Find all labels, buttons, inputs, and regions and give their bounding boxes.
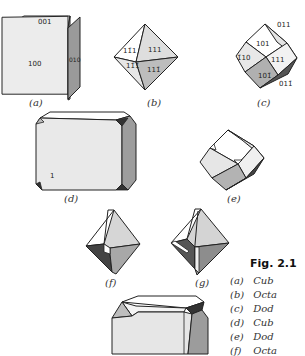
crystal-bevelled-cube-h	[108, 292, 208, 354]
caption-c: (c)	[257, 97, 270, 108]
legend-text: Cub	[253, 317, 274, 328]
legend-row-b: (b) Octa	[230, 289, 277, 300]
svg-text:101̄: 101̄	[258, 72, 271, 80]
legend-key: (e)	[230, 331, 250, 342]
caption-a: (a)	[29, 97, 43, 108]
legend-row-e: (e) Dod	[230, 331, 274, 342]
legend-text: Dod	[253, 331, 273, 342]
svg-text:1: 1	[50, 172, 54, 180]
legend-key: (c)	[230, 303, 250, 314]
svg-text:011̄: 011̄	[279, 80, 292, 88]
caption-g: (g)	[195, 277, 209, 288]
svg-text:101: 101	[256, 40, 269, 48]
caption-e: (e)	[227, 193, 241, 204]
svg-text:11̄1̄: 11̄1̄	[126, 62, 139, 70]
index-100: 100	[28, 60, 41, 68]
crystal-truncated-octahedron-f	[82, 208, 142, 276]
svg-text:11̄1: 11̄1	[123, 47, 136, 55]
legend-key: (f)	[230, 345, 250, 356]
figure-number: Fig. 2.1	[250, 257, 297, 270]
index-010: 010	[69, 56, 81, 63]
legend-key: (b)	[230, 289, 250, 300]
legend-key: (a)	[230, 275, 250, 286]
caption-b: (b)	[147, 97, 161, 108]
index-001: 001	[38, 18, 51, 26]
legend-row-c: (c) Dod	[230, 303, 274, 314]
crystal-cube-a-side: 010	[66, 17, 82, 102]
svg-text:111: 111	[148, 46, 161, 54]
crystal-truncated-cube-d: 1	[32, 110, 137, 195]
svg-text:011: 011	[277, 21, 290, 29]
legend-text: Dod	[253, 303, 273, 314]
crystal-truncated-dodecahedron-e	[198, 128, 270, 194]
caption-d: (d)	[64, 193, 78, 204]
legend-row-f: (f) Octa	[230, 345, 277, 356]
index-labels-c-outer: 011 011̄	[275, 20, 305, 90]
legend-row-a: (a) Cub	[230, 275, 274, 286]
legend-text: Octa	[253, 289, 277, 300]
legend-text: Cub	[253, 275, 274, 286]
legend-row-d: (d) Cub	[230, 317, 274, 328]
caption-f: (f)	[105, 277, 117, 288]
crystal-cube-a: 001 100	[0, 14, 75, 104]
legend-text: Octa	[253, 345, 277, 356]
svg-text:1̄10: 1̄10	[237, 54, 250, 62]
legend-key: (d)	[230, 317, 250, 328]
svg-text:111̄: 111̄	[147, 66, 160, 74]
crystal-octahedron-b: 11̄1 111 11̄1̄ 111̄	[112, 22, 182, 94]
crystal-modified-octahedron-g	[165, 207, 235, 277]
